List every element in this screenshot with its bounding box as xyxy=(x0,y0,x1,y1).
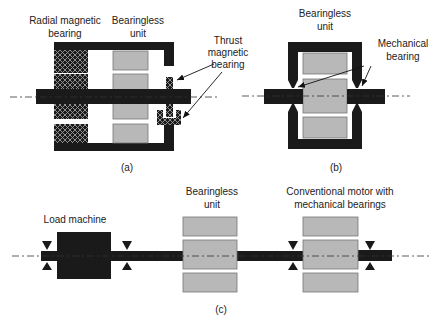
shaft-a xyxy=(36,89,191,104)
label-thrust-magnetic-bearing-line1: Thrust xyxy=(214,35,243,46)
label-bearingless-unit-c-line2: unit xyxy=(204,199,220,210)
bearingless-unit-c xyxy=(183,217,237,292)
label-thrust-magnetic-bearing-line3: bearing xyxy=(211,59,244,70)
label-mechanical-bearing-line1: Mechanical xyxy=(378,38,429,49)
bearingless-motor-diagram: Radial magnetic bearing Bearingless unit… xyxy=(0,0,440,331)
panel-b: Bearingless unit Mechanical bearing (b) xyxy=(242,8,428,173)
shaft-b-left xyxy=(264,89,303,104)
shaft-b-right xyxy=(347,89,385,104)
label-load-machine: Load machine xyxy=(44,214,107,225)
panel-a: Radial magnetic bearing Bearingless unit… xyxy=(10,15,248,173)
label-thrust-magnetic-bearing-line2: magnetic xyxy=(208,47,249,58)
panel-c: Load machine Bearingless unit Convention… xyxy=(12,186,430,315)
label-mechanical-bearing-line2: bearing xyxy=(386,51,419,62)
label-bearingless-unit-line1: Bearingless xyxy=(112,15,164,26)
label-conventional-motor-line1: Conventional motor with xyxy=(286,186,393,197)
label-bearingless-unit-b-line1: Bearingless xyxy=(299,8,351,19)
label-conventional-motor-line2: mechanical bearings xyxy=(294,199,386,210)
load-machine xyxy=(57,232,111,279)
shaft-c-right xyxy=(358,250,392,261)
caption-b: (b) xyxy=(330,162,342,173)
label-bearingless-unit-line2: unit xyxy=(130,28,146,39)
label-bearingless-unit-c-line1: Bearingless xyxy=(186,186,238,197)
caption-c: (c) xyxy=(215,304,227,315)
caption-a: (a) xyxy=(121,162,133,173)
label-bearingless-unit-b-line2: unit xyxy=(317,21,333,32)
conventional-motor xyxy=(303,217,358,292)
label-radial-magnetic-bearing-line2: bearing xyxy=(48,28,81,39)
bearingless-unit-b xyxy=(303,53,347,138)
label-radial-magnetic-bearing-line1: Radial magnetic xyxy=(29,15,101,26)
